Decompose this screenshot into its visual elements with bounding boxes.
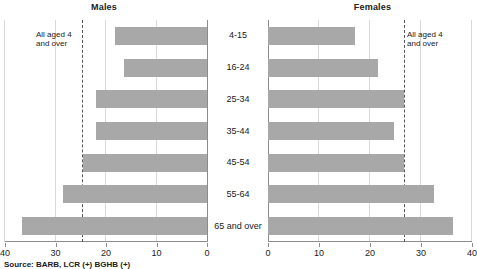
age-group-label-35-44: 35-44 — [208, 126, 268, 136]
plot-area-males — [5, 20, 207, 242]
axis-tick-label: 0 — [265, 248, 270, 258]
age-group-label-65-and-over: 65 and over — [208, 221, 268, 231]
age-group-label-4-15: 4-15 — [208, 30, 268, 40]
bar-males-16-24 — [124, 59, 207, 77]
bar-females-4-15 — [268, 27, 355, 45]
axis-tick-label: 40 — [467, 248, 477, 258]
axis-baseline — [268, 241, 472, 242]
axis-baseline — [5, 241, 207, 242]
bar-males-4-15 — [115, 27, 207, 45]
axis-tick — [56, 243, 57, 247]
plot-area-females — [268, 20, 472, 242]
axis-tick — [268, 243, 269, 247]
panel-title-females: Females — [268, 2, 477, 12]
bar-females-25-34 — [268, 90, 404, 108]
bar-females-45-54 — [268, 154, 404, 172]
reference-line — [82, 20, 83, 242]
age-group-label-column: 4-1516-2425-3435-4445-5455-6465 and over — [208, 20, 268, 242]
panel-title-males: Males — [0, 2, 208, 12]
axis-tick — [472, 243, 473, 247]
age-group-label-16-24: 16-24 — [208, 62, 268, 72]
plot-panel-females — [268, 20, 472, 243]
bar-males-45-54 — [83, 154, 207, 172]
reference-line-annotation-males: All aged 4 and over — [36, 30, 82, 48]
axis-tick-label: 0 — [204, 248, 209, 258]
bar-females-55-64 — [268, 185, 434, 203]
age-group-label-25-34: 25-34 — [208, 94, 268, 104]
axis-tick — [106, 243, 107, 247]
axis-tick-label: 30 — [416, 248, 426, 258]
axis-tick — [421, 243, 422, 247]
bar-males-35-44 — [96, 122, 207, 140]
gridline — [471, 20, 472, 242]
axis-tick — [370, 243, 371, 247]
gridline — [420, 20, 421, 242]
bar-females-16-24 — [268, 59, 378, 77]
age-group-label-45-54: 45-54 — [208, 157, 268, 167]
bar-males-25-34 — [96, 90, 207, 108]
axis-tick-label: 10 — [151, 248, 161, 258]
age-group-label-55-64: 55-64 — [208, 189, 268, 199]
axis-tick — [207, 243, 208, 247]
source-note: Source: BARB, LCR (+) BGHB (+) — [4, 260, 130, 269]
axis-tick-label: 20 — [365, 248, 375, 258]
axis-tick-label: 40 — [0, 248, 10, 258]
bar-females-65-and-over — [268, 217, 453, 235]
axis-tick-label: 30 — [50, 248, 60, 258]
gridline — [55, 20, 56, 242]
axis-tick-label: 20 — [101, 248, 111, 258]
reference-line — [404, 20, 405, 242]
bar-males-65-and-over — [22, 217, 207, 235]
plot-panel-males — [5, 20, 207, 243]
gridline — [4, 20, 5, 242]
axis-tick-label: 10 — [314, 248, 324, 258]
axis-tick — [157, 243, 158, 247]
bar-males-55-64 — [63, 185, 207, 203]
bar-females-35-44 — [268, 122, 394, 140]
axis-tick — [5, 243, 6, 247]
reference-line-annotation-females: All aged 4 and over — [407, 30, 459, 48]
axis-tick — [319, 243, 320, 247]
